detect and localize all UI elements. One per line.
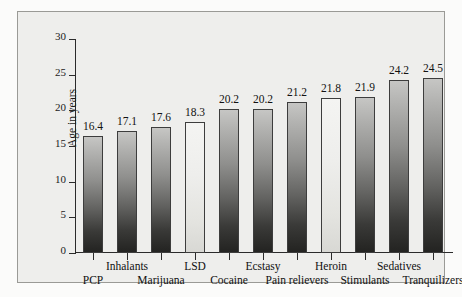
bar: 17.6 [151,127,171,253]
bar-value-label: 24.2 [389,65,409,77]
x-axis-label: PCP [83,275,103,287]
x-axis-label: Stimulants [340,275,389,287]
x-axis-label: Sedatives [377,261,421,273]
y-tick-mark [69,146,76,147]
bar: 21.9 [355,97,375,253]
x-axis-tick [263,253,264,260]
bar: 24.5 [423,78,443,253]
x-axis-label: Tranquilizers [403,275,462,287]
bar-value-label: 16.4 [83,121,103,133]
x-axis-tick [399,253,400,260]
x-axis-label: Ecstasy [245,261,280,273]
bar-value-label: 21.2 [287,87,307,99]
bar-value-label: 17.1 [117,116,137,128]
y-tick-mark [69,182,76,183]
y-axis-tick: 30 [69,39,76,40]
y-tick-mark [69,75,76,76]
x-axis-tick [127,253,128,260]
y-axis-tick: 5 [69,217,76,218]
bar-value-label: 24.5 [423,63,443,75]
bar: 17.1 [117,131,137,253]
chart-page: Age in years 051015202530 16.417.117.618… [0,0,462,297]
y-tick-label: 10 [55,174,66,185]
bar-value-label: 21.9 [355,82,375,94]
bar: 20.2 [219,109,239,253]
x-axis-tick [331,253,332,260]
x-axis-label: LSD [184,261,206,273]
bar-value-label: 17.6 [151,112,171,124]
x-axis-tick [229,253,230,260]
x-axis-label: Heroin [315,261,347,273]
bar: 20.2 [253,109,273,253]
y-axis-tick: 20 [69,110,76,111]
bar-value-label: 20.2 [219,94,239,106]
bar: 21.8 [321,98,341,254]
y-axis-tick: 0 [69,253,76,254]
x-axis-label: Marijuana [137,275,184,287]
y-tick-label: 20 [55,102,66,113]
bar-value-label: 21.8 [321,83,341,95]
bar: 18.3 [185,122,205,253]
chart-frame: Age in years 051015202530 16.417.117.618… [17,11,445,283]
x-axis-tick [297,253,298,260]
y-axis-tick: 25 [69,75,76,76]
y-tick-mark [69,110,76,111]
bar: 16.4 [83,136,103,253]
y-tick-mark [69,217,76,218]
x-axis-label: Pain relievers [266,275,329,287]
bar: 24.2 [389,80,409,253]
y-tick-label: 5 [61,209,67,220]
bar-value-label: 18.3 [185,107,205,119]
x-axis-label: Cocaine [210,275,248,287]
y-tick-label: 15 [55,138,66,149]
x-axis-tick [93,253,94,260]
y-tick-mark [69,253,76,254]
y-tick-label: 25 [55,67,66,78]
x-axis-tick [195,253,196,260]
bar-value-label: 20.2 [253,94,273,106]
y-tick-mark [69,39,76,40]
x-axis-tick [433,253,434,260]
plot-area: 16.417.117.618.320.220.221.221.821.924.2… [76,39,450,253]
x-axis-label: Inhalants [106,261,148,273]
x-axis-tick [365,253,366,260]
y-axis-tick: 10 [69,182,76,183]
bar: 21.2 [287,102,307,253]
y-tick-label: 30 [55,31,66,42]
y-axis-tick: 15 [69,146,76,147]
x-axis-tick [161,253,162,260]
y-tick-label: 0 [61,245,67,256]
